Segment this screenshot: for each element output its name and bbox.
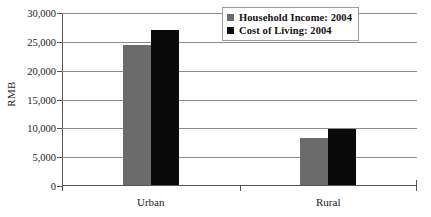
bar-chart: RMB 30,00025,00020,00015,00010,0005,0000… <box>0 0 431 217</box>
gridline <box>62 42 417 43</box>
x-axis-tick <box>62 186 63 191</box>
y-axis-tick <box>57 128 62 129</box>
bar-urban-series1 <box>151 30 179 185</box>
legend-swatch-icon <box>227 14 234 21</box>
chart-legend: Household Income: 2004Cost of Living: 20… <box>222 7 359 41</box>
legend-swatch-icon <box>227 27 234 34</box>
bar-urban-series0 <box>123 45 151 185</box>
y-axis-tick-label: 15,000 <box>4 94 56 105</box>
y-axis-tick <box>57 100 62 101</box>
y-axis-tick <box>57 157 62 158</box>
legend-label: Cost of Living: 2004 <box>239 25 332 36</box>
gridline <box>62 100 417 101</box>
y-axis-tick-label: 0 <box>4 181 56 192</box>
gridline <box>62 157 417 158</box>
x-axis-tick <box>416 186 417 191</box>
gridline <box>62 71 417 72</box>
y-axis-tick-label: 10,000 <box>4 123 56 134</box>
legend-label: Household Income: 2004 <box>239 12 352 23</box>
y-axis-tick-label: 5,000 <box>4 152 56 163</box>
y-axis-tick <box>57 42 62 43</box>
y-axis-tick-label: 30,000 <box>4 8 56 19</box>
y-axis-tick <box>57 13 62 14</box>
y-axis-tick-label: 25,000 <box>4 36 56 47</box>
bar-rural-series1 <box>328 129 356 185</box>
legend-item: Household Income: 2004 <box>227 11 352 24</box>
y-axis-tick <box>57 71 62 72</box>
x-axis-label-urban: Urban <box>91 196 211 208</box>
x-axis-tick <box>240 186 241 191</box>
x-axis-label-rural: Rural <box>268 196 388 208</box>
bar-rural-series0 <box>300 138 328 185</box>
legend-item: Cost of Living: 2004 <box>227 24 352 37</box>
gridline <box>62 128 417 129</box>
y-axis-tick-label: 20,000 <box>4 65 56 76</box>
